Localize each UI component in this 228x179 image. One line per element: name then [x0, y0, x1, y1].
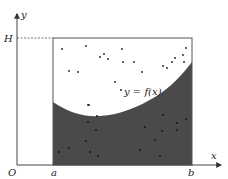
sample-point — [87, 121, 89, 123]
sample-point — [171, 61, 173, 63]
sample-point — [174, 57, 176, 59]
sample-point — [114, 81, 116, 83]
sample-point — [185, 118, 187, 120]
sample-point — [95, 129, 97, 131]
sample-point — [176, 129, 178, 131]
sample-point — [107, 58, 109, 60]
sample-point — [133, 61, 135, 63]
sample-point — [121, 48, 123, 50]
area-under-curve — [53, 62, 192, 165]
sample-point — [141, 71, 143, 73]
sample-point — [61, 48, 63, 50]
sample-point — [122, 61, 124, 63]
sample-point — [144, 126, 146, 128]
sample-point — [182, 54, 184, 56]
sample-point — [154, 139, 156, 141]
y-axis-label: y — [20, 9, 27, 20]
sample-point — [85, 140, 87, 142]
sample-point — [162, 114, 164, 116]
sample-point — [120, 89, 122, 91]
sample-point — [68, 70, 70, 72]
sample-point — [166, 67, 168, 69]
x-axis-label: x — [211, 150, 217, 161]
sample-point — [85, 45, 87, 47]
curve-label: y = f(x) — [123, 86, 162, 97]
sample-point — [89, 151, 91, 153]
sample-point — [103, 53, 105, 55]
sample-point — [96, 115, 98, 117]
sample-point — [99, 56, 101, 58]
sample-point — [176, 122, 178, 124]
sample-point — [139, 149, 141, 151]
sample-point — [58, 151, 60, 153]
sample-point — [97, 155, 99, 157]
b-label: b — [188, 167, 194, 178]
sample-point — [68, 147, 70, 149]
sample-point — [159, 155, 161, 157]
height-label: H — [3, 33, 13, 44]
sample-point — [185, 47, 187, 49]
sample-point — [161, 130, 163, 132]
origin-label: O — [8, 167, 16, 178]
a-label: a — [51, 167, 57, 178]
sample-point — [162, 65, 164, 67]
monte-carlo-diagram: y x H O a b y = f(x) — [0, 0, 228, 179]
sample-point — [183, 61, 185, 63]
sample-point — [77, 71, 79, 73]
sample-point — [88, 104, 90, 106]
